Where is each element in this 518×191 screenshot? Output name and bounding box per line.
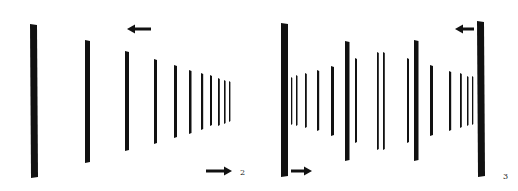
vertical-bar bbox=[377, 52, 379, 150]
figure-3-number: 3 bbox=[503, 172, 508, 181]
figure-2 bbox=[30, 24, 232, 178]
arrow-right-icon bbox=[206, 167, 232, 176]
vertical-bar bbox=[201, 73, 203, 130]
vertical-bar bbox=[414, 40, 419, 161]
vertical-bar bbox=[281, 23, 288, 177]
vertical-bar bbox=[430, 65, 433, 136]
vertical-bar bbox=[85, 40, 90, 163]
vertical-bar bbox=[460, 73, 462, 128]
vertical-bar bbox=[189, 70, 192, 134]
vertical-bar bbox=[30, 24, 38, 178]
figure-3 bbox=[281, 21, 485, 177]
vertical-bar bbox=[229, 81, 230, 122]
vertical-bar bbox=[296, 75, 298, 126]
vertical-bar bbox=[125, 51, 129, 151]
arrow-left-icon bbox=[455, 25, 474, 34]
arrow-left-icon bbox=[127, 25, 151, 34]
vertical-bar bbox=[174, 65, 177, 138]
vertical-bar bbox=[467, 76, 469, 126]
vertical-bar bbox=[218, 78, 220, 126]
vertical-bar bbox=[291, 77, 292, 125]
vertical-bar bbox=[224, 80, 226, 124]
vertical-bar bbox=[331, 66, 334, 136]
vertical-bar bbox=[383, 52, 385, 150]
arrow-right-icon bbox=[291, 167, 312, 176]
vertical-bar bbox=[154, 59, 157, 144]
vertical-bar bbox=[210, 75, 212, 126]
figure-2-number: 2 bbox=[240, 168, 245, 177]
perspective-bars-illustration: 2 3 bbox=[0, 0, 518, 191]
vertical-bar bbox=[477, 21, 485, 177]
vertical-bar bbox=[355, 58, 357, 143]
vertical-bar bbox=[345, 41, 350, 161]
vertical-bar bbox=[305, 73, 307, 128]
vertical-bar bbox=[449, 71, 451, 131]
vertical-bar bbox=[407, 58, 409, 143]
vertical-bar bbox=[317, 70, 319, 131]
vertical-bar bbox=[472, 76, 473, 125]
